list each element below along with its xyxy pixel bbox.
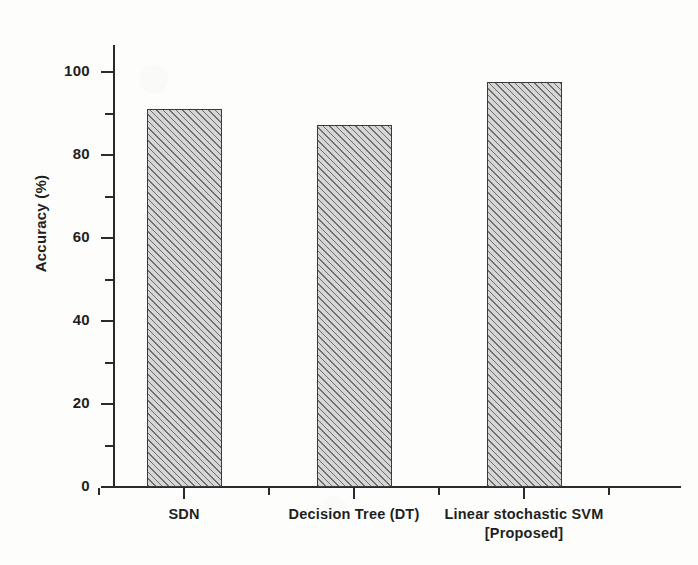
x-tick-minor (438, 488, 440, 495)
y-tick-label: 0 (46, 477, 90, 494)
bar-1 (147, 109, 222, 487)
y-tick-major (101, 403, 113, 405)
y-tick-major (101, 237, 113, 239)
x-tick-minor (268, 488, 270, 495)
y-tick-major (101, 320, 113, 322)
y-tick-minor (105, 445, 113, 447)
y-tick-label: 20 (46, 394, 90, 411)
y-tick-label: 100 (46, 62, 90, 79)
y-axis-spine (113, 45, 115, 488)
y-tick-major (101, 486, 113, 488)
x-tick-major (183, 488, 185, 499)
y-tick-major (101, 154, 113, 156)
x-category-label-line: Linear stochastic SVM (424, 505, 624, 524)
y-tick-label: 40 (46, 311, 90, 328)
x-tick-major (523, 488, 525, 499)
x-category-label-line: [Proposed] (424, 524, 624, 543)
bar-2 (317, 125, 392, 487)
x-tick-minor (98, 488, 100, 495)
y-tick-label: 80 (46, 145, 90, 162)
y-tick-major (101, 71, 113, 73)
y-tick-minor (105, 279, 113, 281)
x-tick-major (353, 488, 355, 499)
y-tick-label: 60 (46, 228, 90, 245)
y-tick-minor (105, 362, 113, 364)
y-tick-minor (105, 196, 113, 198)
chart-figure: Accuracy (%) 020406080100 SDNDecision Tr… (0, 0, 698, 565)
x-category-label: Linear stochastic SVM[Proposed] (424, 505, 624, 543)
bar-3 (487, 82, 562, 487)
x-tick-minor (608, 488, 610, 495)
y-tick-minor (105, 113, 113, 115)
